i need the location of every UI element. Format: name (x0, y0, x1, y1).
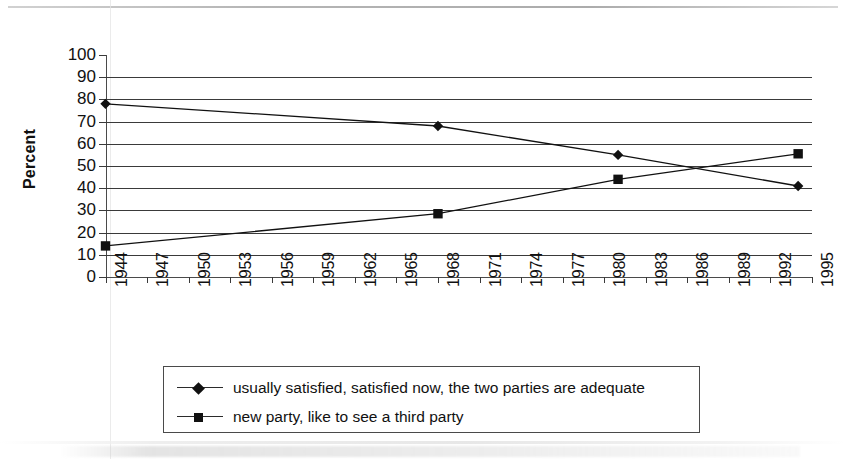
x-tick-label: 1950 (196, 252, 214, 287)
chart-legend: usually satisfied, satisfied now, the tw… (163, 366, 700, 433)
legend-entry: new party, like to see a third party (177, 408, 464, 426)
data-point-square (433, 209, 442, 218)
x-tick-label: 1965 (403, 252, 421, 287)
x-tick-label: 1971 (487, 252, 505, 287)
legend-diamond-icon (177, 381, 223, 395)
data-point-square (793, 149, 802, 158)
data-point-square (613, 175, 622, 184)
legend-label: new party, like to see a third party (233, 408, 464, 426)
x-tick-label: 1983 (653, 252, 671, 287)
x-tick-label: 1953 (237, 252, 255, 287)
data-point-diamond (793, 181, 803, 191)
data-point-diamond (100, 99, 110, 109)
data-point-diamond (433, 121, 443, 131)
x-tick-label: 1989 (736, 252, 754, 287)
x-tick-label: 1956 (279, 252, 297, 287)
x-tick-label: 1986 (694, 252, 712, 287)
x-tick-label: 1959 (320, 252, 338, 287)
x-tick-label: 1992 (777, 252, 795, 287)
data-point-diamond (613, 150, 623, 160)
x-tick-label: 1974 (528, 252, 546, 287)
x-tick-label: 1995 (819, 252, 837, 287)
x-tick-label: 1962 (362, 252, 380, 287)
legend-label: usually satisfied, satisfied now, the tw… (233, 379, 645, 397)
x-tick-label: 1968 (445, 252, 463, 287)
legend-square-icon (177, 410, 223, 424)
chart-figure: Percent 1009080706050403020100 194419471… (0, 0, 846, 459)
series-line-1 (106, 104, 799, 186)
legend-entry: usually satisfied, satisfied now, the tw… (177, 379, 645, 397)
x-tick-label: 1947 (154, 252, 172, 287)
x-tick-label: 1980 (611, 252, 629, 287)
x-tick-label: 1977 (570, 252, 588, 287)
data-point-square (101, 241, 110, 250)
x-tick-label: 1944 (113, 252, 131, 287)
